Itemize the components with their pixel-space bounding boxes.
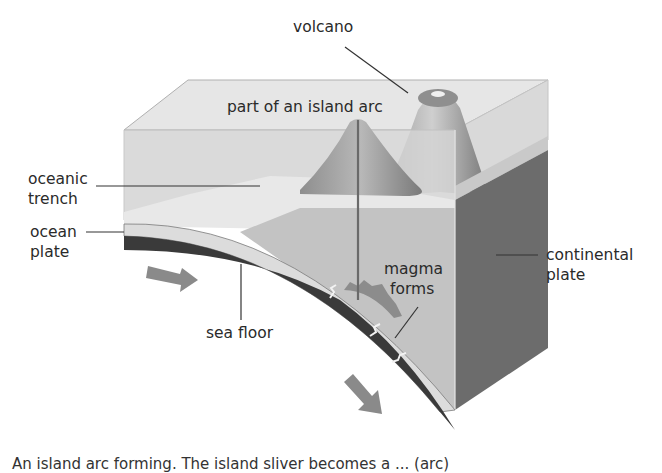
oceanic-trench-label-line1: oceanic bbox=[28, 170, 88, 189]
sea-floor-label: sea floor bbox=[206, 324, 273, 343]
magma-forms-label-line2: forms bbox=[390, 280, 434, 299]
oceanic-trench-label-line2: trench bbox=[28, 190, 78, 209]
figure-caption: An island arc forming. The island sliver… bbox=[12, 455, 449, 473]
island-arc-label: part of an island arc bbox=[227, 98, 383, 117]
continental-plate-label-line1: continental bbox=[546, 246, 633, 265]
volcano-label: volcano bbox=[293, 18, 353, 37]
ocean-plate-motion-arrow bbox=[146, 266, 198, 292]
ocean-plate-label-line2: plate bbox=[30, 243, 69, 262]
subduction-arrow bbox=[344, 374, 382, 414]
magma-forms-label-line1: magma bbox=[384, 260, 443, 279]
ocean-plate-label-line1: ocean bbox=[30, 223, 77, 242]
continental-plate-label-line2: plate bbox=[546, 266, 585, 285]
